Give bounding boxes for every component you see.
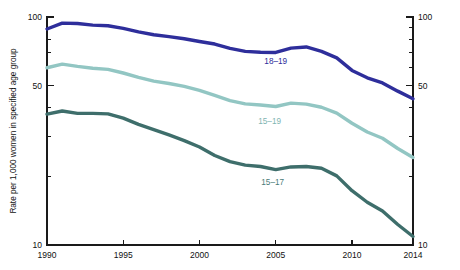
x-axis-tick-label: 2014 bbox=[404, 250, 423, 260]
series-label-15-19: 15–19 bbox=[258, 117, 281, 126]
x-axis-tick-label: 1995 bbox=[114, 250, 133, 260]
teen-birth-rate-chart: 10010050501010199019952000200520102014Ra… bbox=[0, 0, 460, 270]
x-axis-tick-label: 1990 bbox=[38, 250, 57, 260]
x-axis-tick-label: 2010 bbox=[343, 250, 362, 260]
x-axis-tick-label: 2000 bbox=[190, 250, 209, 260]
y-axis-tick-label-right: 50 bbox=[418, 81, 428, 91]
y-axis-tick-label: 10 bbox=[33, 240, 43, 250]
y-axis-title: Rate per 1,000 women in specified age gr… bbox=[9, 48, 18, 214]
axis-frame bbox=[47, 17, 413, 245]
series-label-15-17: 15–17 bbox=[261, 178, 284, 187]
chart-text-labels: 10010050501010199019952000200520102014Ra… bbox=[9, 12, 432, 260]
x-axis-tick-label: 2005 bbox=[266, 250, 285, 260]
y-axis-tick-label: 100 bbox=[28, 12, 42, 22]
y-axis-tick-label-right: 10 bbox=[418, 240, 428, 250]
axes bbox=[47, 17, 413, 245]
series-line-18-19 bbox=[47, 23, 413, 99]
chart-plot-area: 10010050501010199019952000200520102014Ra… bbox=[0, 0, 460, 270]
series-lines bbox=[47, 23, 413, 236]
series-line-15-17 bbox=[47, 111, 413, 236]
series-label-18-19: 18–19 bbox=[264, 57, 287, 66]
series-line-15-19 bbox=[47, 64, 413, 157]
y-axis-tick-label: 50 bbox=[33, 81, 43, 91]
y-axis-tick-label-right: 100 bbox=[418, 12, 432, 22]
